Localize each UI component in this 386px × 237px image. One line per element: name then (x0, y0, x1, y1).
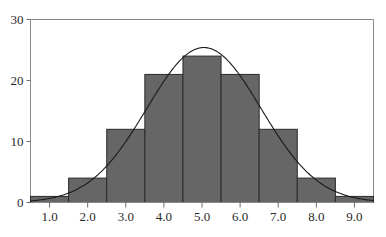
bar (297, 178, 335, 202)
x-tick-label: 5.0 (194, 209, 210, 224)
y-tick-label: 10 (11, 134, 24, 149)
bar-series (31, 56, 374, 202)
bar (145, 74, 183, 202)
bar (107, 129, 145, 202)
bar (31, 196, 69, 202)
x-tick-label: 8.0 (308, 209, 324, 224)
y-axis: 0102030 (11, 12, 31, 210)
x-tick-label: 3.0 (118, 209, 134, 224)
bar (183, 56, 221, 202)
x-tick-label: 4.0 (156, 209, 172, 224)
chart-canvas: 01020301.02.03.04.05.06.07.08.09.0 (0, 0, 386, 237)
x-tick-label: 9.0 (346, 209, 362, 224)
x-tick-label: 6.0 (232, 209, 248, 224)
histogram-chart: 01020301.02.03.04.05.06.07.08.09.0 (0, 0, 386, 237)
x-axis: 1.02.03.04.05.06.07.08.09.0 (31, 203, 374, 224)
y-tick-label: 20 (11, 73, 24, 88)
bar (221, 74, 259, 202)
bar (259, 129, 297, 202)
x-tick-label: 7.0 (270, 209, 286, 224)
x-tick-label: 2.0 (80, 209, 96, 224)
y-tick-label: 0 (17, 195, 24, 210)
y-tick-label: 30 (11, 12, 24, 27)
x-tick-label: 1.0 (41, 209, 57, 224)
